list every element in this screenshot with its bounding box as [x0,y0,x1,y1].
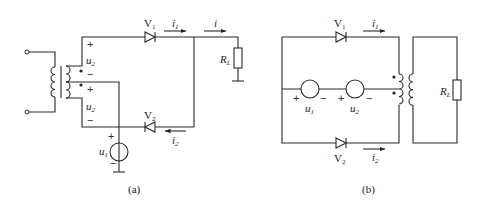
sign-minus: − [110,157,116,169]
primary-coil [51,67,55,97]
label-i2: i2 [172,134,179,148]
label-i1: i1 [372,17,379,31]
primary-coil [399,74,403,104]
label-rl: RL [439,85,451,99]
secondary-coil-bottom [66,82,70,98]
voltage-source-u1 [301,80,319,98]
label-i2: i2 [372,151,379,165]
diode-v1 [336,32,346,42]
label-v1: V1 [334,17,346,31]
secondary-coil [409,74,413,105]
label-u1: u1 [99,145,108,159]
sign-plus: + [87,38,93,50]
sign-plus: + [108,130,114,142]
label-u2: u2 [350,102,360,116]
voltage-source-u2 [346,80,364,98]
sign-plus: + [338,92,344,104]
caption-a: (a) [128,183,141,196]
label-u2-top: u2 [86,54,96,68]
polarity-dot [79,83,82,86]
circuit-b: V1 V2 i1 i2 RL u1 u2 + − + − (b) [282,17,461,196]
label-i: i [214,17,217,29]
diode-v2 [145,122,155,132]
label-v2: V2 [144,109,156,123]
input-terminal-top [25,50,29,54]
diode-v2 [336,138,346,148]
label-u2-bottom: u2 [86,100,96,114]
sign-plus: + [293,92,299,104]
load-resistor-b [453,80,461,100]
polarity-dot [392,91,395,94]
sign-minus: − [87,114,93,126]
sign-minus: − [87,68,93,80]
sign-minus: − [320,92,326,104]
input-terminal-bottom [25,110,29,114]
sign-minus: − [366,92,372,104]
label-i1: i1 [172,17,179,31]
label-rl: RL [219,53,231,67]
diode-v1 [145,32,155,42]
circuit-a: V1 V2 i1 i i2 RL u2 u2 u1 + − + − + − (a… [25,17,244,196]
label-v2: V2 [334,152,346,166]
secondary-coil-top [66,66,70,82]
polarity-dot [392,75,395,78]
sign-plus: + [87,83,93,95]
polarity-dot [79,69,82,72]
load-resistor-a [234,48,242,68]
label-u1: u1 [305,102,314,116]
label-v1: V1 [144,17,156,31]
caption-b: (b) [362,183,375,196]
